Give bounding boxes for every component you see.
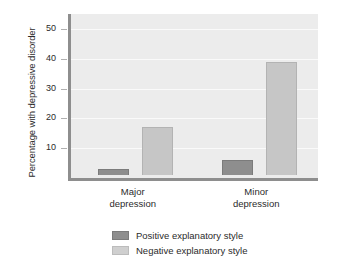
bar-chart-figure: Percentage with depressive disorder 1020… [0,0,361,277]
legend-swatch-positive-icon [112,231,129,240]
y-tick-mark [61,89,67,90]
x-category-label-line1: Minor [244,186,268,197]
bar-negative-1 [266,62,297,175]
legend-item-negative: Negative explanatory style [112,243,312,258]
legend-label-positive: Positive explanatory style [136,230,243,241]
legend-label-negative: Negative explanatory style [136,245,247,256]
y-tick-label: 30 [34,83,56,93]
y-tick-label: 40 [34,53,56,63]
x-category-label-line2: depression [73,198,193,210]
x-category-label-line2: depression [196,198,316,210]
y-tick-label: 20 [34,112,56,122]
bar-positive-0 [98,169,129,175]
gridline [71,29,318,30]
legend-item-positive: Positive explanatory style [112,228,312,243]
bar-negative-0 [142,127,173,175]
bar-positive-1 [222,160,253,175]
y-tick-mark [61,59,67,60]
x-category-label-1: Minordepression [196,186,316,210]
legend-swatch-negative-icon [112,246,129,255]
y-tick-label: 10 [34,142,56,152]
y-tick-mark [61,29,67,30]
y-axis-title: Percentage with depressive disorder [26,8,37,198]
plot-inner [71,14,318,178]
gridline [71,59,318,60]
x-category-label-0: Majordepression [73,186,193,210]
y-tick-mark [61,118,67,119]
y-tick-mark [61,148,67,149]
plot-area [68,14,318,181]
x-category-label-line1: Major [121,186,145,197]
chart-legend: Positive explanatory style Negative expl… [112,228,312,258]
y-tick-label: 50 [34,23,56,33]
